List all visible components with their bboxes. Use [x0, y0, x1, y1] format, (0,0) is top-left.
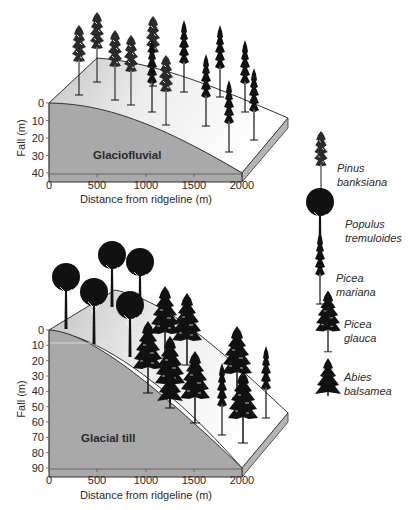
legend-label: glauca: [344, 332, 376, 344]
legend: Pinus banksiana Populus tremuloides Pice…: [306, 131, 402, 397]
x-tick: 1500: [182, 179, 206, 191]
y-tick: 10: [32, 115, 44, 127]
legend-label: balsamea: [344, 385, 392, 397]
y-tick: 40: [32, 385, 44, 397]
figure-canvas: Glaciofluvial 0 10 20 30 40 Fall (m) 0 5…: [0, 0, 415, 510]
x-tick: 500: [88, 474, 106, 486]
legend-label: Populus: [345, 218, 385, 230]
y-axis-upper: 0 10 20 30 40 Fall (m): [15, 97, 49, 179]
y-tick: 50: [32, 401, 44, 413]
legend-label: Pinus: [337, 162, 365, 174]
legend-label: banksiana: [337, 176, 387, 188]
pine-tree-sparse-icon: [314, 131, 327, 198]
x-tick: 1000: [134, 179, 158, 191]
chart-glacial-till: Glacial till 0 10 20 30 40 50 60 70 80 9…: [15, 241, 288, 501]
y-tick: 20: [32, 355, 44, 367]
legend-item-picea-glauca: Picea glauca: [315, 291, 376, 352]
x-axis-label: Distance from ridgeline (m): [80, 489, 212, 501]
picea-mariana-tree-icon: [215, 25, 225, 97]
y-axis-label: Fall (m): [15, 380, 27, 417]
y-tick: 20: [32, 132, 44, 144]
x-tick: 2000: [230, 474, 254, 486]
legend-label: Picea: [336, 272, 364, 284]
x-tick: 1000: [134, 474, 158, 486]
y-tick: 0: [38, 97, 44, 109]
y-tick: 30: [32, 370, 44, 382]
x-tick: 1500: [182, 474, 206, 486]
panel-label-glacial-till: Glacial till: [81, 432, 135, 444]
y-tick: 10: [32, 339, 44, 351]
x-axis-label: Distance from ridgeline (m): [80, 193, 212, 205]
y-tick: 40: [32, 167, 44, 179]
legend-label: Picea: [344, 318, 372, 330]
legend-item-abies-balsamea: Abies balsamea: [315, 358, 392, 397]
x-tick: 2000: [230, 179, 254, 191]
x-tick: 0: [46, 474, 52, 486]
y-axis-label: Fall (m): [15, 119, 27, 156]
y-tick: 80: [32, 447, 44, 459]
legend-label: mariana: [336, 286, 376, 298]
chart-glaciofluvial: Glaciofluvial 0 10 20 30 40 Fall (m) 0 5…: [15, 12, 288, 205]
y-axis-lower: 0 10 20 30 40 50 60 70 80 90 Fall (m): [15, 324, 49, 474]
y-tick: 90: [32, 462, 44, 474]
narrow-spruce-icon: [315, 232, 325, 304]
legend-label: tremuloides: [345, 232, 402, 244]
broad-spruce-icon: [315, 291, 341, 352]
legend-item-pinus-banksiana: Pinus banksiana: [314, 131, 387, 198]
x-tick: 500: [88, 179, 106, 191]
y-tick: 60: [32, 416, 44, 428]
fir-tree-icon: [315, 358, 341, 396]
y-tick: 30: [32, 150, 44, 162]
x-tick: 0: [46, 179, 52, 191]
panel-label-glaciofluvial: Glaciofluvial: [93, 149, 161, 161]
y-tick: 0: [38, 324, 44, 336]
legend-label: Abies: [343, 371, 372, 383]
y-tick: 70: [32, 431, 44, 443]
